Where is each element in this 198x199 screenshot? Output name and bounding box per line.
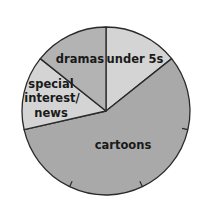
label-cartoons: cartoons [95, 138, 152, 152]
label-special-line2: interest/ [24, 91, 80, 105]
label-special-line1: special [28, 77, 73, 91]
label-special-line3: news [34, 106, 68, 120]
label-under-5s: under 5s [107, 52, 164, 66]
label-dramas: dramas [56, 52, 104, 66]
pie-chart: under 5s dramas special interest/ news c… [0, 0, 198, 199]
